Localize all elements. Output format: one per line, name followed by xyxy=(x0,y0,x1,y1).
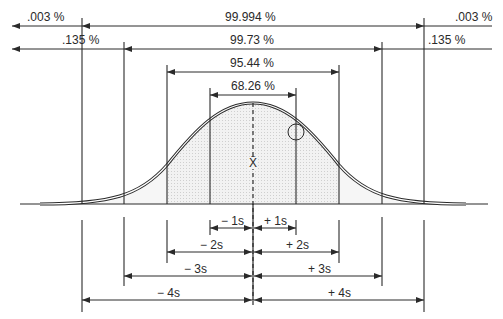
plus-1s-label: + 1s xyxy=(264,215,287,227)
minus-4s-label: − 4s xyxy=(157,287,180,299)
minus-2s-label: − 2s xyxy=(200,239,223,251)
range-4s-label: 99.994 % xyxy=(225,11,276,23)
range-2s-label: 95.44 % xyxy=(230,57,274,69)
tail-right-inner-label: .135 % xyxy=(428,34,465,46)
mean-label: X̄ xyxy=(249,157,257,169)
tail-left-outer-label: .003 % xyxy=(27,11,64,23)
range-3s-label: 99.73 % xyxy=(230,34,274,46)
plus-3s-label: + 3s xyxy=(308,263,331,275)
tail-right-outer-label: .003 % xyxy=(455,11,492,23)
plus-4s-label: + 4s xyxy=(328,287,351,299)
minus-3s-label: − 3s xyxy=(184,263,207,275)
minus-1s-label: − 1s xyxy=(221,215,244,227)
range-1s-label: 68.26 % xyxy=(231,80,275,92)
plus-2s-label: + 2s xyxy=(286,239,309,251)
tail-left-inner-label: .135 % xyxy=(62,34,99,46)
